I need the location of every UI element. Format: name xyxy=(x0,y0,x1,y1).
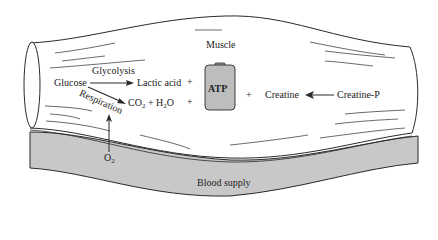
co2-text: CO xyxy=(128,97,142,108)
plus-sign-1: + xyxy=(187,77,193,87)
atp-label: ATP xyxy=(208,84,227,94)
glycolysis-label: Glycolysis xyxy=(92,66,135,76)
co2-h2o-label: CO2 + H2O xyxy=(128,98,174,110)
lactic-acid-label: Lactic acid xyxy=(137,78,181,88)
muscle-label: Muscle xyxy=(206,40,235,50)
plus-sign-2: + xyxy=(187,97,193,107)
plus-sign-3: + xyxy=(246,90,252,100)
o2-subscript: 2 xyxy=(111,157,115,165)
muscle-end-ellipse xyxy=(24,42,40,128)
h2o-tail: O xyxy=(167,97,174,108)
blood-supply-label: Blood supply xyxy=(197,178,251,188)
oxygen-label: O2 xyxy=(104,153,115,165)
h2o-text: + H xyxy=(145,97,163,108)
creatine-label: Creatine xyxy=(265,90,299,100)
creatine-p-label: Creatine-P xyxy=(337,90,380,100)
